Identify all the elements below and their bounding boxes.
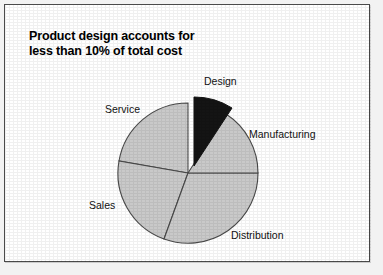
pie-label-service: Service (105, 103, 140, 115)
pie-label-design: Design (204, 75, 237, 87)
pie-chart-svg (5, 5, 371, 263)
pie-label-manufacturing: Manufacturing (249, 128, 316, 140)
pie-label-distribution: Distribution (231, 229, 284, 241)
pie-label-sales: Sales (89, 199, 115, 211)
pie-chart (5, 5, 371, 263)
screenshot-root: Product design accounts for less than 10… (0, 0, 383, 275)
chart-frame: Product design accounts for less than 10… (4, 4, 370, 262)
